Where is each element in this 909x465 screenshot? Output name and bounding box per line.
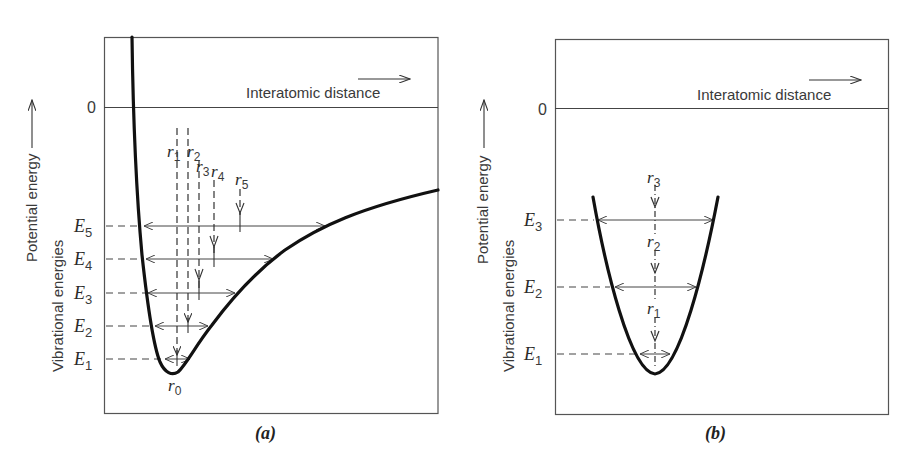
zero-label-a: 0 [87,99,96,116]
vibrational-energies-label: Vibrational energies [500,240,517,372]
e3-label-a: E3 [73,283,92,307]
energy-labels-b: E3 E2 E1 [523,210,542,368]
r1-label-a: r1 [167,142,181,164]
e1-label-b: E1 [523,344,542,368]
interatomic-distance-label-b: Interatomic distance [697,86,831,103]
potential-energy-axis-label-a: Potential energy Vibrational energies [23,100,66,372]
e2-label-a: E2 [73,316,92,340]
e1-label-a: E1 [73,349,92,373]
panel-a: Potential energy Vibrational energies 0 … [23,37,438,444]
potential-energy-axis-label-b: Potential energy Vibrational energies [474,100,517,372]
potential-energy-label: Potential energy [23,153,40,262]
e4-label-a: E4 [73,249,92,273]
r3-label-b: r3 [647,168,661,190]
caption-b: (b) [705,423,726,444]
panel-b: Potential energy Vibrational energies 0 … [474,40,889,445]
e2-label-b: E2 [523,277,542,301]
zero-label-b: 0 [538,101,547,118]
mean-position-lines-a [177,128,240,355]
r1-label-b: r1 [647,299,661,321]
e5-label-a: E5 [73,216,92,240]
interatomic-distance-label-a: Interatomic distance [246,84,380,101]
vibrational-energies-label: Vibrational energies [49,240,66,372]
figure-canvas: Potential energy Vibrational energies 0 … [0,0,909,465]
r4-label-a: r4 [211,162,225,184]
mean-position-line-b [651,185,659,368]
e3-label-b: E3 [523,210,542,234]
r0-label-a: r0 [168,376,182,398]
r5-label-a: r5 [235,170,249,192]
r-labels-a: r1 r2 r3 r4 r5 r0 [167,142,249,398]
r3-label-a: r3 [196,157,210,179]
potential-energy-label: Potential energy [474,155,491,264]
mean-position-arrowheads-a [177,203,244,366]
oscillation-ranges-a [144,226,325,359]
caption-a: (a) [255,423,276,444]
energy-labels-a: E5 E4 E3 E2 E1 [73,216,92,373]
r2-label-b: r2 [647,232,661,254]
r-labels-b: r3 r2 r1 [647,168,661,321]
